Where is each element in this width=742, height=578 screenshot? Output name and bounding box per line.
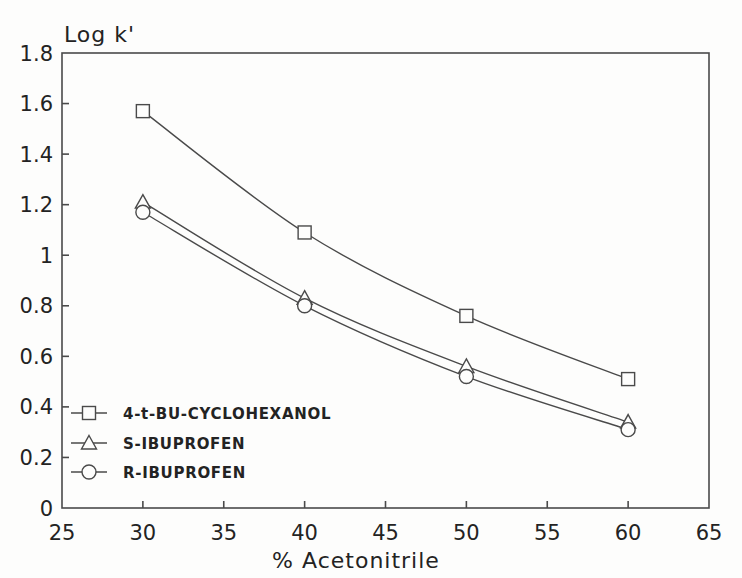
legend-label: S-IBUPROFEN bbox=[123, 435, 245, 453]
legend-label: 4-t-BU-CYCLOHEXANOL bbox=[123, 405, 331, 423]
data-point-circle-marker bbox=[298, 299, 312, 313]
legend: 4-t-BU-CYCLOHEXANOLS-IBUPROFENR-IBUPROFE… bbox=[71, 405, 331, 482]
series-line-triangle bbox=[143, 202, 628, 422]
legend-item: S-IBUPROFEN bbox=[71, 435, 245, 453]
y-tick-label: 0.6 bbox=[20, 345, 53, 369]
y-tick-label: 1.4 bbox=[20, 143, 53, 167]
data-point-square-marker bbox=[460, 309, 473, 322]
scanned-chart-figure: Log k' 25303540455055606500.20.40.60.811… bbox=[0, 0, 742, 578]
legend-label: R-IBUPROFEN bbox=[123, 464, 246, 482]
x-tick-label: 45 bbox=[372, 521, 399, 545]
y-axis-title: Log k' bbox=[64, 22, 135, 47]
legend-circle-marker bbox=[82, 465, 96, 479]
y-tick-label: 0.8 bbox=[20, 294, 53, 318]
legend-item: 4-t-BU-CYCLOHEXANOL bbox=[71, 405, 331, 423]
data-point-circle-marker bbox=[459, 370, 473, 384]
line-chart: Log k' 25303540455055606500.20.40.60.811… bbox=[0, 0, 742, 578]
x-tick-label: 30 bbox=[130, 521, 157, 545]
y-tick-label: 0.4 bbox=[20, 395, 53, 419]
y-tick-label: 1.2 bbox=[20, 193, 53, 217]
x-tick-label: 40 bbox=[291, 521, 318, 545]
x-axis-label: % Acetonitrile bbox=[272, 548, 440, 573]
data-point-square-marker bbox=[136, 105, 149, 118]
y-tick-label: 1.6 bbox=[20, 92, 53, 116]
data-point-square-marker bbox=[298, 226, 311, 239]
x-tick-label: 55 bbox=[534, 521, 561, 545]
legend-square-marker bbox=[83, 407, 96, 420]
series-line-square bbox=[143, 111, 628, 379]
data-point-circle-marker bbox=[621, 423, 635, 437]
x-tick-label: 65 bbox=[696, 521, 723, 545]
y-tick-label: 0.2 bbox=[20, 446, 53, 470]
legend-item: R-IBUPROFEN bbox=[71, 464, 246, 482]
series-line-circle bbox=[143, 212, 628, 429]
y-tick-label: 0 bbox=[40, 497, 53, 521]
legend-triangle-marker bbox=[82, 436, 97, 450]
x-tick-label: 25 bbox=[49, 521, 76, 545]
data-point-square-marker bbox=[622, 373, 635, 386]
y-tick-label: 1 bbox=[40, 244, 53, 268]
data-point-circle-marker bbox=[136, 205, 150, 219]
x-tick-label: 60 bbox=[615, 521, 642, 545]
y-tick-label: 1.8 bbox=[20, 42, 53, 66]
x-tick-label: 50 bbox=[453, 521, 480, 545]
x-tick-label: 35 bbox=[210, 521, 237, 545]
